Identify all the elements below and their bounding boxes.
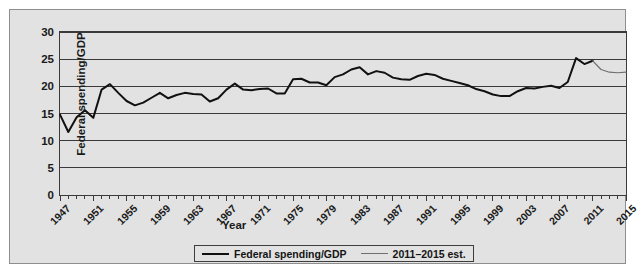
x-tick-label: 1951 [81, 202, 106, 227]
chart-legend: Federal spending/GDP 2011–2015 est. [194, 245, 474, 262]
page-bleed-strip: · · · · · · [0, 0, 635, 8]
legend-item-estimate: 2011–2015 est. [361, 248, 466, 260]
x-tick-label: 1991 [414, 202, 439, 227]
x-tick-label: 2007 [547, 202, 572, 227]
plot-area: Federal spending/GDP 0510152025301947195… [59, 31, 627, 196]
legend-line-icon-federal-spending [202, 253, 229, 255]
x-tick-label: 1979 [314, 202, 339, 227]
legend-label-estimate: 2011–2015 est. [393, 248, 466, 260]
chart-canvas [60, 32, 626, 203]
y-axis-title: Federal spending/GDP [75, 4, 87, 184]
x-tick-label: 1959 [147, 202, 172, 227]
figure-frame: Federal spending/GDP 0510152025301947195… [9, 9, 626, 264]
x-tick-label: 1947 [47, 202, 72, 227]
x-tick-label: 1983 [347, 202, 372, 227]
x-tick-label: 1995 [447, 202, 472, 227]
x-tick-label: 1971 [247, 202, 272, 227]
x-tick-label: 1955 [114, 202, 139, 227]
y-tick-label: 25 [41, 53, 54, 65]
y-tick-label: 0 [48, 189, 54, 201]
legend-label-federal-spending: Federal spending/GDP [234, 248, 347, 260]
data-series-line [593, 61, 626, 73]
x-tick-label: 1999 [480, 202, 505, 227]
x-tick-label: 2003 [514, 202, 539, 227]
x-tick-label: 2011 [581, 202, 606, 227]
x-tick-label: 1975 [281, 202, 306, 227]
y-tick-label: 5 [48, 162, 54, 174]
y-tick-label: 30 [41, 26, 54, 38]
data-series-line [60, 58, 593, 132]
x-tick-label: 2015 [613, 202, 638, 227]
legend-item-federal-spending: Federal spending/GDP [202, 248, 347, 260]
x-axis-title: Year [222, 219, 246, 231]
y-tick-label: 10 [41, 135, 54, 147]
page-bleed-text: · · · · · · [0, 0, 49, 3]
x-tick-label: 1963 [181, 202, 206, 227]
y-tick-label: 15 [41, 108, 54, 120]
y-tick-label: 20 [41, 80, 54, 92]
x-tick-label: 1987 [380, 202, 405, 227]
legend-line-icon-estimate [361, 253, 388, 254]
